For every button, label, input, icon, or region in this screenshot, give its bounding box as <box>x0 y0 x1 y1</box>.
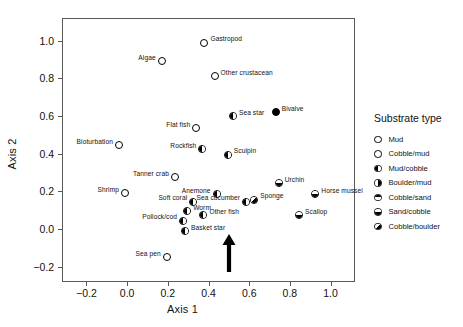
data-point <box>171 173 179 181</box>
legend-symbol-cobble-sand-icon <box>374 194 382 202</box>
y-tick-label: 0.8 <box>8 72 54 84</box>
legend-entries: MudCobble/mudMud/cobbleBoulder/mudCobble… <box>374 132 462 234</box>
data-point <box>183 207 191 215</box>
y-axis-title: Axis 2 <box>6 114 18 194</box>
x-tick-label: 0.0 <box>120 287 135 299</box>
y-tick-label: −0.2 <box>8 261 54 273</box>
y-tick-label: 0.0 <box>8 223 54 235</box>
x-tick <box>290 282 291 286</box>
data-point <box>181 227 189 235</box>
data-point-label: Other fish <box>209 208 239 215</box>
legend-item-sand-cobble[interactable]: Sand/cobble <box>374 205 462 220</box>
legend-symbol-cobble-mud-icon <box>374 150 382 158</box>
data-point-label: Sea cucumber <box>196 195 240 202</box>
legend-item-label: Sand/cobble <box>389 207 431 216</box>
data-point-label: Bivalve <box>282 105 304 112</box>
data-point-label: Sculpin <box>234 148 256 155</box>
legend-item-label: Mud <box>389 135 404 144</box>
data-point <box>121 189 129 197</box>
x-tick-label: 1.0 <box>323 287 338 299</box>
data-point <box>211 72 219 80</box>
data-point <box>272 108 280 116</box>
scatter-plot-figure: −0.20.00.20.40.60.81.0 1.00.80.60.40.20.… <box>0 0 463 327</box>
data-point-label: Sea star <box>239 109 264 116</box>
data-point <box>198 145 206 153</box>
data-point <box>163 253 171 261</box>
y-tick <box>58 116 62 117</box>
legend-item-cobble-boulder[interactable]: Cobble/boulder <box>374 219 462 234</box>
data-point-label: Flat fish <box>166 121 190 128</box>
arrow-up-icon <box>222 234 236 272</box>
y-tick <box>58 78 62 79</box>
data-point-label: Horse mussel <box>321 187 363 194</box>
legend-symbol-boulder-mud-icon <box>374 179 382 187</box>
legend-symbol-mud-cobble-icon <box>374 165 382 173</box>
y-tick <box>58 154 62 155</box>
data-point <box>224 151 232 159</box>
data-point <box>275 179 283 187</box>
data-point <box>115 141 123 149</box>
data-point <box>158 57 166 65</box>
legend-item-label: Mud/cobble <box>389 164 428 173</box>
data-point-label: Gastropod <box>210 35 242 42</box>
data-point-label: Soft coral <box>158 195 187 202</box>
data-point <box>311 190 319 198</box>
legend-item-boulder-mud[interactable]: Boulder/mud <box>374 176 462 191</box>
legend-symbol-mud-icon <box>374 136 382 144</box>
legend-item-mud[interactable]: Mud <box>374 132 462 147</box>
x-tick <box>249 282 250 286</box>
data-point-label: Anemone <box>182 187 211 194</box>
data-point-label: Shrimp <box>98 186 120 193</box>
legend-item-label: Cobble/boulder <box>389 222 441 231</box>
legend-item-mud-cobble[interactable]: Mud/cobble <box>374 161 462 176</box>
data-point <box>192 124 200 132</box>
x-tick-label: 0.6 <box>242 287 257 299</box>
data-point-label: Urchin <box>285 176 305 183</box>
legend-item-label: Cobble/sand <box>389 193 432 202</box>
legend: Substrate type MudCobble/mudMud/cobbleBo… <box>374 112 462 234</box>
data-point <box>295 211 303 219</box>
legend-item-cobble-mud[interactable]: Cobble/mud <box>374 147 462 162</box>
y-tick-label: 1.0 <box>8 35 54 47</box>
plot-area <box>62 18 355 282</box>
legend-symbol-cobble-boulder-icon <box>374 223 382 231</box>
x-tick-label: 0.2 <box>160 287 175 299</box>
x-tick-label: −0.2 <box>76 287 97 299</box>
x-tick <box>86 282 87 286</box>
x-tick <box>127 282 128 286</box>
data-point-label: Sponge <box>260 193 283 200</box>
legend-item-label: Boulder/mud <box>389 178 432 187</box>
data-point-label: Basket star <box>191 224 225 231</box>
x-tick-label: 0.8 <box>283 287 298 299</box>
legend-symbol-sand-cobble-icon <box>374 208 382 216</box>
y-tick <box>58 41 62 42</box>
data-point-label: Bioturbation <box>77 138 113 145</box>
x-tick <box>331 282 332 286</box>
x-tick <box>168 282 169 286</box>
data-point-label: Rockfish <box>170 142 196 149</box>
data-point <box>250 196 258 204</box>
x-tick <box>209 282 210 286</box>
y-tick <box>58 191 62 192</box>
legend-item-label: Cobble/mud <box>389 149 430 158</box>
y-tick <box>58 229 62 230</box>
x-axis-title: Axis 1 <box>0 303 365 315</box>
data-point <box>200 39 208 47</box>
data-point-label: Scallop <box>305 208 327 215</box>
data-point-label: Pollock/cod <box>142 214 177 221</box>
data-point-label: Other crustacean <box>221 69 273 76</box>
legend-item-cobble-sand[interactable]: Cobble/sand <box>374 190 462 205</box>
up-arrow-annotation <box>222 234 236 272</box>
legend-title: Substrate type <box>374 112 462 124</box>
data-point-label: Sea pen <box>136 250 161 257</box>
data-point <box>179 217 187 225</box>
data-point <box>242 198 250 206</box>
data-point <box>229 112 237 120</box>
x-tick-label: 0.4 <box>201 287 216 299</box>
data-point-label: Tanner crab <box>133 170 169 177</box>
y-tick <box>58 267 62 268</box>
data-point-label: Algae <box>138 54 155 61</box>
data-point <box>199 211 207 219</box>
